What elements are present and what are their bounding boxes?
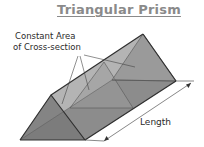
triangular-prism-diagram bbox=[0, 0, 204, 147]
